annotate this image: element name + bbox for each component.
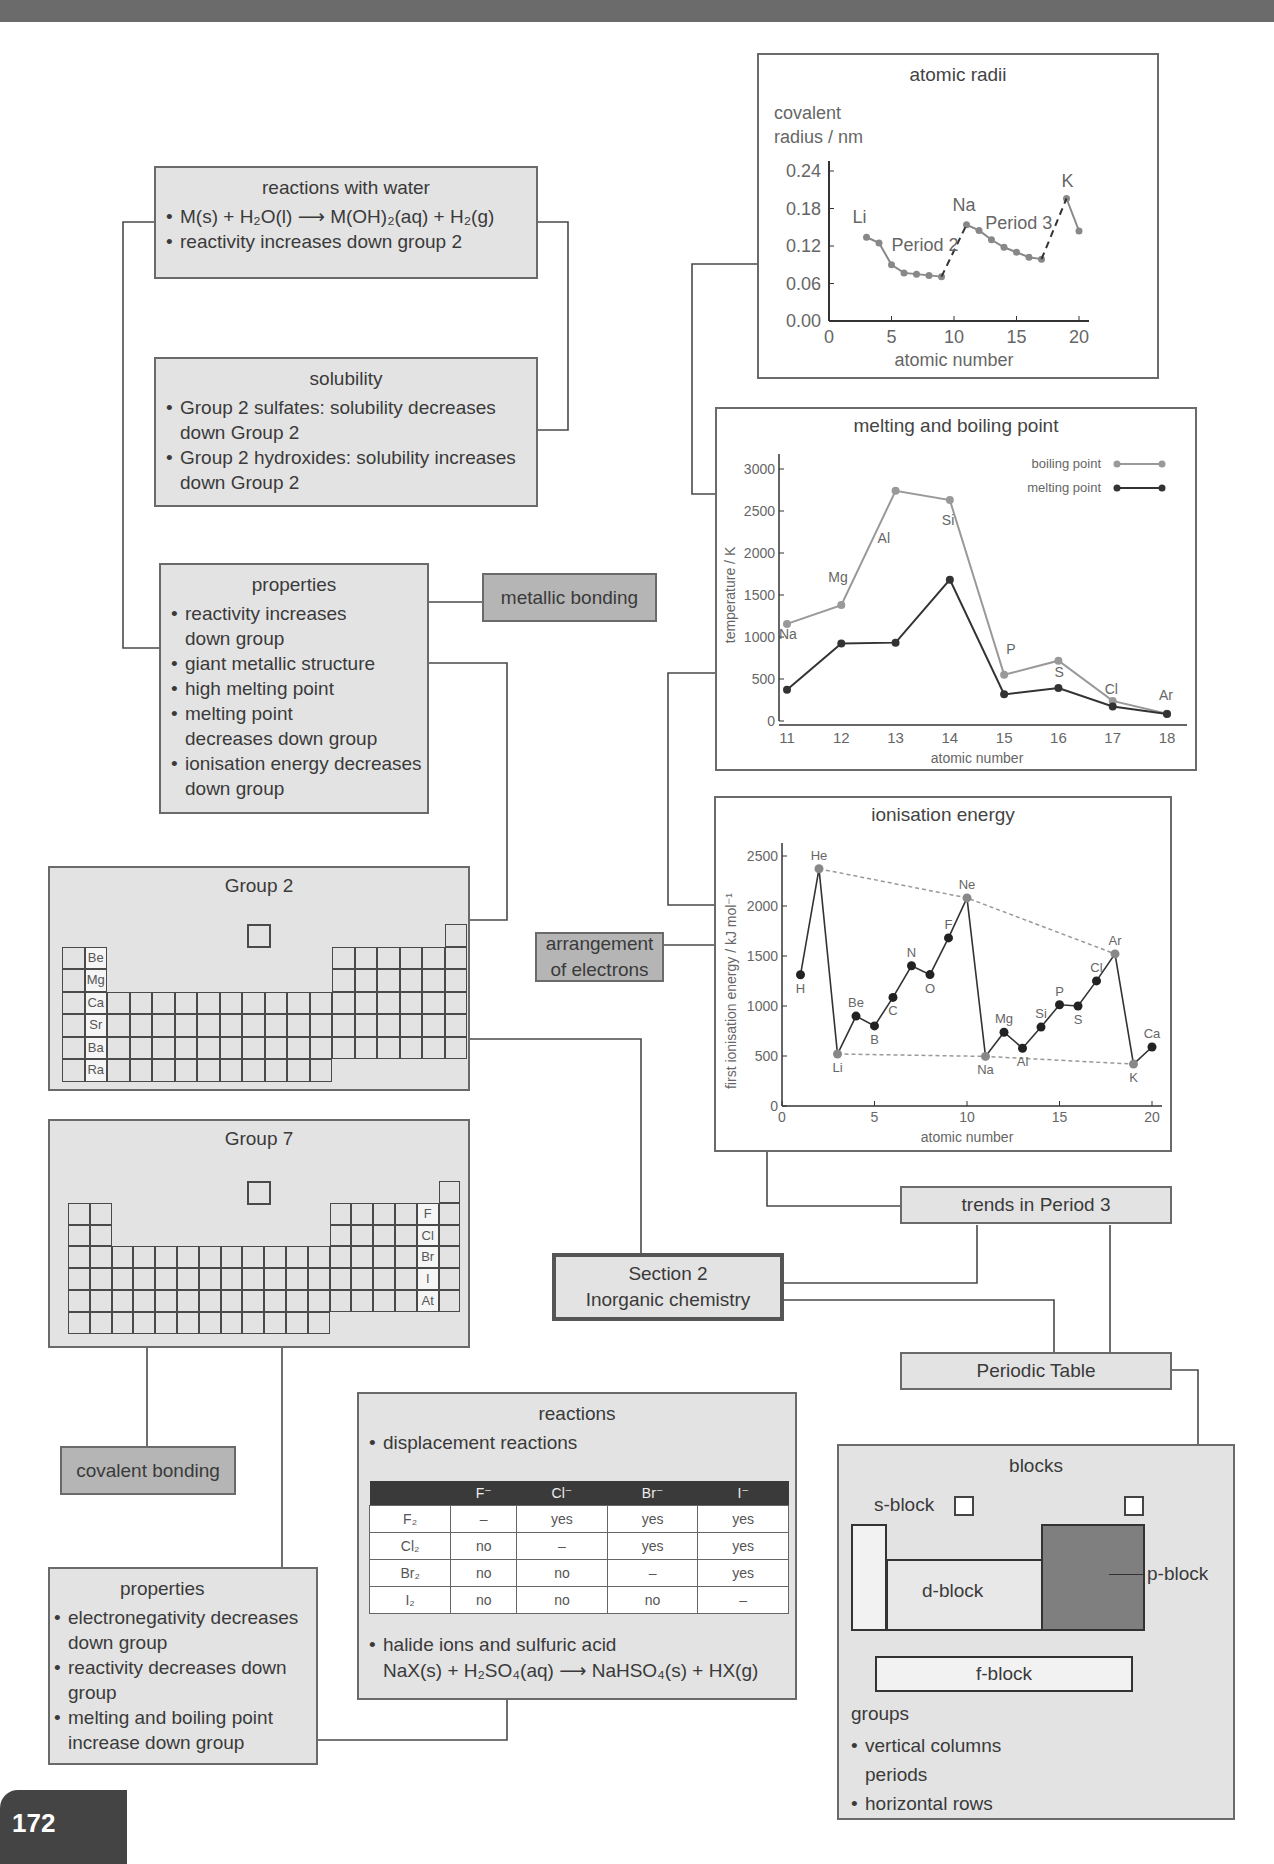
element-cell [130,1014,153,1037]
element-cell [351,1268,373,1290]
s-block-label: s-block [874,1494,934,1516]
arrangement-line2: of electrons [550,957,648,983]
table-cell: yes [517,1505,608,1532]
svg-text:radius / nm: radius / nm [774,127,863,147]
solubility-hydroxides: Group 2 hydroxides: solubility increases… [166,445,526,495]
svg-text:covalent: covalent [774,103,841,123]
element-cell: Ca [85,992,108,1015]
svg-text:K: K [1129,1070,1138,1085]
table-cell: no [517,1559,608,1586]
element-cell [332,1014,355,1037]
svg-text:2000: 2000 [744,545,775,561]
svg-text:Mg: Mg [995,1011,1013,1026]
element-cell [286,1268,308,1290]
element-cell [355,992,378,1015]
element-cell [264,1246,286,1268]
group2-box: Group 2 BeMgCaSrBaRa [48,866,470,1091]
ionisation-energy-plot: 0500100015002000250005101520atomic numbe… [716,798,1174,1154]
element-cell [177,1268,199,1290]
element-cell [90,1268,112,1290]
element-cell [133,1268,155,1290]
table-cell: yes [698,1559,789,1586]
group2-properties-box: properties reactivity increases down gro… [159,563,429,814]
element-cell [221,1290,243,1312]
table-cell: Br₂ [370,1559,451,1586]
element-cell [287,1014,310,1037]
element-cell [175,1059,198,1082]
element-cell [439,1181,461,1203]
p-block-he-cell [1124,1496,1144,1516]
element-cell [221,1312,243,1334]
atomic-radii-chart: atomic radii covalentradius / nm0.000.06… [757,53,1159,379]
blocks-title: blocks [839,1454,1233,1478]
element-cell [62,1037,85,1060]
svg-text:N: N [907,945,916,960]
svg-text:Ar: Ar [1109,933,1123,948]
element-cell [68,1290,90,1312]
element-cell [439,1290,461,1312]
element-cell [68,1246,90,1268]
element-cell [332,969,355,992]
table-header: I⁻ [698,1481,789,1505]
property-item: melting point decreases down group [171,701,423,751]
svg-text:Mg: Mg [828,569,847,585]
element-cell [242,1014,265,1037]
group2-title: Group 2 [50,874,468,898]
element-cell [377,1014,400,1037]
svg-text:atomic number: atomic number [894,350,1013,370]
element-cell [242,1037,265,1060]
element-cell [445,1037,468,1060]
element-cell [107,1059,130,1082]
element-cell [377,969,400,992]
element-cell [330,1246,352,1268]
svg-text:P: P [1055,984,1064,999]
element-cell [62,947,85,970]
element-cell [351,1203,373,1225]
element-cell [130,992,153,1015]
svg-text:Period 2: Period 2 [892,235,959,255]
metallic-bonding-box: metallic bonding [482,573,657,622]
table-header: Br⁻ [607,1481,698,1505]
element-cell [439,1246,461,1268]
element-cell [152,992,175,1015]
element-cell [445,947,468,970]
group2-properties-title: properties [161,573,427,597]
element-cell [221,1268,243,1290]
element-cell [422,992,445,1015]
element-cell [175,992,198,1015]
svg-text:1000: 1000 [744,629,775,645]
element-cell [373,1268,395,1290]
svg-text:16: 16 [1050,729,1067,746]
table-cell: no [607,1586,698,1613]
page-header-bar [0,0,1274,22]
svg-text:Ca: Ca [1144,1026,1161,1041]
element-cell [308,1268,330,1290]
element-cell [152,1037,175,1060]
svg-text:P: P [1006,641,1015,657]
svg-text:15: 15 [1052,1109,1068,1125]
table-cell: – [451,1505,517,1532]
svg-text:15: 15 [1006,327,1026,347]
svg-text:1500: 1500 [747,948,778,964]
property-item: giant metallic structure [171,651,423,676]
element-cell [130,1059,153,1082]
element-cell [175,1014,198,1037]
element-cell [264,1268,286,1290]
section-title: Section 2 [628,1261,707,1287]
element-cell [242,1246,264,1268]
svg-text:20: 20 [1069,327,1089,347]
element-cell: Ba [85,1037,108,1060]
element-cell [373,1290,395,1312]
element-cell [287,1037,310,1060]
group7-properties-title: properties [50,1577,316,1601]
element-cell [175,1037,198,1060]
svg-text:Al: Al [1017,1054,1029,1069]
element-cell [68,1225,90,1247]
table-header [370,1481,451,1505]
melting-boiling-chart: melting and boiling point 05001000150020… [715,407,1197,771]
element-cell [112,1312,134,1334]
element-cell [351,1225,373,1247]
reactions-title: reactions [359,1402,795,1426]
water-reactivity: reactivity increases down group 2 [166,229,526,254]
hydrogen-cell [247,1181,271,1205]
